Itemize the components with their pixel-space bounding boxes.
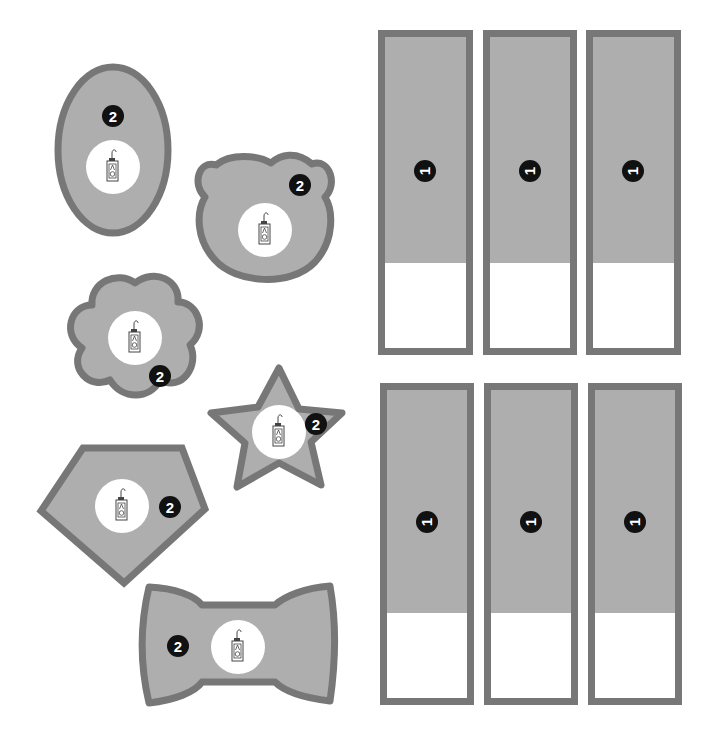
shape-star[interactable]: 2	[211, 368, 342, 487]
panel-fill	[385, 37, 466, 263]
number-badge: 2	[149, 365, 171, 387]
svg-text:2: 2	[174, 638, 182, 655]
svg-text:2: 2	[312, 416, 320, 433]
panel-fill	[387, 390, 467, 613]
panel-fill	[593, 37, 674, 263]
number-badge: 1	[414, 160, 436, 182]
number-badge: 1	[519, 160, 541, 182]
shape-bear-head[interactable]: 2	[198, 155, 331, 279]
svg-text:2: 2	[156, 368, 164, 385]
svg-text:2: 2	[166, 499, 174, 516]
number-badge: 2	[305, 413, 327, 435]
number-badge: 1	[520, 511, 542, 533]
panel-fill	[491, 390, 571, 613]
shape-pentagon[interactable]: 2	[41, 448, 205, 583]
panel-bottom-3[interactable]: 1	[588, 383, 682, 705]
number-badge: 2	[167, 635, 189, 657]
shape-flower[interactable]: 2	[71, 276, 200, 395]
panel-fill	[490, 37, 570, 263]
number-badge: 2	[159, 496, 181, 518]
shape-bow-tie[interactable]: 2	[142, 586, 334, 703]
panel-top-3[interactable]: 1	[586, 30, 681, 355]
number-badge: 1	[624, 511, 646, 533]
svg-text:2: 2	[109, 108, 117, 125]
svg-text:2: 2	[296, 177, 304, 194]
panel-bottom-1[interactable]: 1	[380, 383, 474, 705]
number-badge: 2	[289, 174, 311, 196]
number-badge: 2	[102, 105, 124, 127]
panel-top-2[interactable]: 1	[483, 30, 577, 355]
shape-oval[interactable]: 2	[58, 67, 168, 233]
number-badge: 1	[622, 160, 644, 182]
panel-bottom-2[interactable]: 1	[484, 383, 578, 705]
panel-fill	[595, 390, 675, 613]
panel-top-1[interactable]: 1	[378, 30, 473, 355]
number-badge: 1	[416, 511, 438, 533]
